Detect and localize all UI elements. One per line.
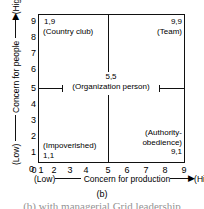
x-axis-title: (Low) Concern for production▶(High) <box>34 174 192 185</box>
y-tick-2: 2 <box>26 132 36 141</box>
y-axis-high-label: (High) <box>11 0 21 14</box>
quadrant-code-1-9: 1,9 <box>44 17 93 27</box>
clipped-footer-text: (b) with managerial Grid leadership <box>0 201 204 209</box>
y-tick-6: 6 <box>26 65 36 74</box>
managerial-grid-figure: (Low) Concern for people ▶(High) 9 8 7 6… <box>0 0 204 209</box>
y-tick-8: 8 <box>26 33 36 42</box>
arrow-right-icon: ▶ <box>11 13 20 20</box>
y-tick-5: 5 <box>26 84 36 93</box>
y-axis-title-text: Concern for people <box>11 41 21 113</box>
x-axis-rule-right <box>170 178 190 179</box>
quadrant-name-country-club: (Country club) <box>43 27 93 37</box>
x-axis-rule-left <box>55 178 81 179</box>
quadrant-code-9-1: 9,1 <box>142 147 182 157</box>
quadrant-name-organization-person: (Organization person) <box>63 82 159 92</box>
quadrant-label-country-club: 1,9 (Country club) <box>43 17 93 36</box>
divider-vertical-lower <box>108 95 109 163</box>
y-axis-rule-left <box>15 115 16 141</box>
figure-caption: (b) <box>0 189 204 199</box>
divider-horizontal-left <box>38 88 62 89</box>
x-axis-low-label: (Low) <box>34 174 55 184</box>
quadrant-label-organization-person: 5,5 (Organization person) <box>63 72 159 91</box>
quadrant-name-authority-obedience-line1: (Authority- <box>142 128 182 138</box>
y-tick-3: 3 <box>26 116 36 125</box>
quadrant-code-9-9: 9,9 <box>157 17 182 27</box>
x-axis-high-label: (High) <box>194 174 204 184</box>
quadrant-label-authority-obedience: (Authority- obedience) 9,1 <box>142 128 182 157</box>
quadrant-code-5-5: 5,5 <box>63 72 159 82</box>
divider-vertical-upper <box>108 14 109 79</box>
y-axis-low-label: (Low) <box>11 144 21 165</box>
quadrant-label-team: 9,9 (Team) <box>157 17 182 36</box>
quadrant-code-1-1: 1,1 <box>43 151 96 161</box>
divider-horizontal-right <box>160 88 185 89</box>
y-tick-7: 7 <box>26 49 36 58</box>
y-axis-title: (Low) Concern for people ▶(High) <box>9 5 23 165</box>
quadrant-name-team: (Team) <box>157 27 182 37</box>
center-label-bracket-right <box>159 85 160 92</box>
quadrant-label-impoverished: (Impoverished) 1,1 <box>43 141 96 160</box>
y-tick-9: 9 <box>26 17 36 26</box>
x-axis-title-text: Concern for production <box>84 174 170 184</box>
quadrant-name-impoverished: (Impoverished) <box>43 141 96 151</box>
quadrant-name-authority-obedience-line2: obedience) <box>142 138 182 148</box>
y-tick-1: 1 <box>26 148 36 157</box>
y-tick-4: 4 <box>26 100 36 109</box>
y-axis-rule-right <box>15 18 16 38</box>
